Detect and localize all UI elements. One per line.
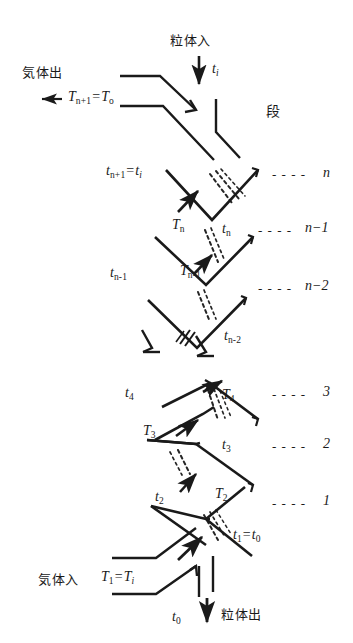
- stage-number-stage-n: n: [323, 166, 330, 180]
- solid-temp-stage-1: t2: [155, 490, 164, 506]
- gas-outlet-temp-lhs-sub: n+1: [76, 96, 91, 106]
- particle-discharge-chute: [199, 556, 213, 597]
- gas-temp-stage-1-base: T: [215, 486, 223, 501]
- stage-number-stage-3: 3: [323, 385, 330, 399]
- gas-outlet-duct: [120, 76, 214, 160]
- equals-sign: =: [242, 527, 252, 542]
- gas-inlet-lhs-sub: 1: [109, 576, 114, 586]
- stage-lead-stage-n: - - - -: [272, 168, 306, 181]
- gas-temp-stage-n-1-sub: n-1: [188, 270, 201, 280]
- gas-temp-stage-n: Tn: [172, 218, 185, 234]
- solid-temp-stage-2: t3: [222, 438, 231, 454]
- particle-top-temp-rhs-sub: i: [139, 170, 142, 180]
- stage-lead-stage-n-2: - - - -: [258, 282, 292, 295]
- solid-temp-stage-n-2: tn-2: [224, 329, 241, 345]
- particle-bottom-rhs-sub: 0: [256, 534, 261, 544]
- gas-temp-stage-3: T4: [222, 388, 235, 404]
- particle-outlet-temp-label: t0: [172, 610, 181, 626]
- equals-sign: =: [91, 89, 101, 104]
- particle-outlet-temp-sub: 0: [176, 616, 181, 626]
- solid-temp-stage-3: t4: [125, 386, 134, 402]
- stage-lead-stage-n-1: - - - -: [258, 224, 292, 237]
- particle-inlet-temp-sub: i: [216, 68, 219, 78]
- gas-temp-stage-3-sub: 4: [230, 394, 235, 404]
- gas-inlet-label: 気体入: [38, 573, 79, 586]
- particle-inlet-label: 粒体入: [170, 34, 211, 47]
- gas-flow-arrow-stage-2: [180, 474, 196, 492]
- solid-temp-stage-n-sub: n: [226, 228, 231, 238]
- tray-stage-2: [147, 440, 253, 492]
- gas-outlet-temp-equation: Tn+1=To: [68, 90, 114, 106]
- stage-column-header: 段: [266, 104, 281, 118]
- equals-sign: =: [114, 569, 124, 584]
- solid-temp-stage-n: tn: [222, 222, 231, 238]
- gas-temp-stage-n-sub: n: [180, 224, 185, 234]
- stage-lead-stage-2: - - - -: [272, 440, 306, 453]
- gas-outlet-temp-rhs: T: [101, 89, 109, 104]
- gas-temp-stage-n-1-base: T: [180, 263, 188, 278]
- solid-temp-stage-n-2-sub: n-2: [228, 335, 241, 345]
- stage-number-stage-1: 1: [323, 494, 330, 508]
- break-marker-left: [142, 330, 160, 352]
- solid-temp-stage-1-sub: 2: [159, 496, 164, 506]
- figure-root: 粒体入 ti 気体出 Tn+1=To 段 tn+1=ti - - - - n T…: [0, 0, 353, 643]
- particle-inlet-temp-label: ti: [212, 62, 219, 78]
- particle-top-temp-lhs-sub: n+1: [110, 170, 125, 180]
- top-feed-chute: [216, 99, 240, 158]
- gas-temp-stage-1-sub: 2: [223, 493, 228, 503]
- equals-sign: =: [125, 163, 135, 178]
- stage-number-stage-n-1: n−1: [305, 221, 328, 235]
- tray-stage-1: [151, 487, 252, 556]
- gas-temp-stage-2: T3: [143, 424, 156, 440]
- gas-flow-arrow-stage-1: [178, 537, 202, 560]
- gas-inlet-temp-equation: T1=Ti: [101, 570, 134, 586]
- gas-outlet-temp-lhs: T: [68, 89, 76, 104]
- particle-outlet-label: 粒体出: [221, 608, 262, 621]
- gas-inlet-rhs-sub: i: [131, 576, 134, 586]
- gas-temp-stage-1: T2: [215, 487, 228, 503]
- solid-temp-stage-3-sub: 4: [129, 392, 134, 402]
- particle-top-temp-equation: tn+1=ti: [106, 164, 142, 180]
- solid-temp-stage-n-1: tn-1: [110, 266, 127, 282]
- gas-temp-stage-n-1: Tn-1: [180, 264, 201, 280]
- cascade-diagram-svg: [0, 0, 353, 643]
- stage-number-stage-n-2: n−2: [305, 279, 328, 293]
- gas-temp-stage-3-base: T: [222, 387, 230, 402]
- gas-inlet-lhs: T: [101, 569, 109, 584]
- tray-stage-n-1: [155, 235, 253, 285]
- gas-temp-stage-2-sub: 3: [151, 430, 156, 440]
- gas-outlet-label: 気体出: [22, 66, 63, 79]
- stage-number-stage-2: 2: [323, 437, 330, 451]
- gas-temp-stage-n-base: T: [172, 217, 180, 232]
- stage-lead-stage-3: - - - -: [272, 388, 306, 401]
- gas-temp-stage-2-base: T: [143, 423, 151, 438]
- stage-lead-stage-1: - - - -: [272, 497, 306, 510]
- tray-stage-3-body: [155, 407, 214, 440]
- solid-temp-stage-2-sub: 3: [226, 444, 231, 454]
- solid-temp-stage-n-1-sub: n-1: [114, 272, 127, 282]
- gas-outlet-temp-rhs-sub: o: [109, 96, 114, 106]
- particle-stream-stage-2: [170, 450, 190, 475]
- particle-bottom-temp-equation: t1=t0: [233, 528, 261, 544]
- particle-stream-stage-n: [210, 169, 245, 203]
- particle-stream-stage-n-2: [198, 290, 216, 322]
